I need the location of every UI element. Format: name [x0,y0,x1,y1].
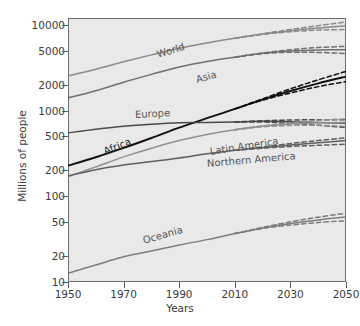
x-axis-tick-mark [68,282,69,288]
x-axis-label: Years [0,302,360,314]
x-axis-tick-label: 2010 [221,288,248,300]
y-axis-tick-mark [62,170,68,171]
x-axis-tick-label: 1950 [55,288,82,300]
x-axis-tick-mark [179,282,180,288]
y-axis-tick-mark [62,85,68,86]
y-axis-tick-label: 5000 [38,45,65,57]
population-chart-figure: 10205010020050010002000500010000 Million… [0,0,360,326]
x-axis-tick-mark [346,282,347,288]
y-axis-tick-mark [62,136,68,137]
x-axis-tick-mark [124,282,125,288]
y-axis-tick-mark [62,256,68,257]
x-axis-tick-label: 1970 [110,288,137,300]
x-axis-tick-mark [290,282,291,288]
y-axis-tick-mark [62,196,68,197]
series-label-europe: Europe [134,107,170,120]
y-axis-tick-mark [62,111,68,112]
y-axis-tick-label: 10000 [32,19,65,31]
y-axis-tick-mark [62,25,68,26]
x-axis-tick-mark [235,282,236,288]
y-axis-tick-label: 1000 [38,105,65,117]
y-axis-label: Millions of people [16,96,28,216]
y-axis-tick-label: 2000 [38,79,65,91]
y-axis-tick-mark [62,222,68,223]
y-axis-tick-mark [62,51,68,52]
x-axis-tick-label: 1990 [166,288,193,300]
x-axis-tick-label: 2050 [333,288,360,300]
x-axis-tick-label: 2030 [277,288,304,300]
